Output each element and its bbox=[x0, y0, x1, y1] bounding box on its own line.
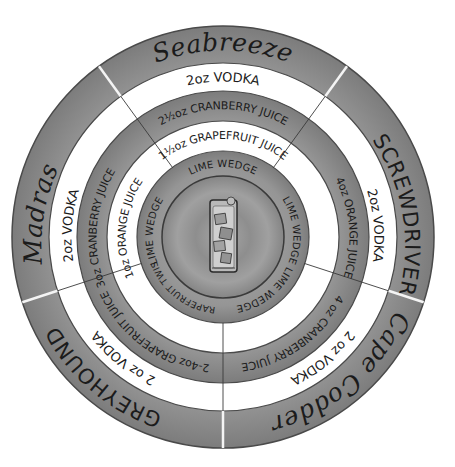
highball-glass-icon bbox=[210, 197, 237, 272]
cocktail-wheel: Seabreeze SCREWDRIVER Cape Codder GREYHO… bbox=[0, 0, 455, 467]
